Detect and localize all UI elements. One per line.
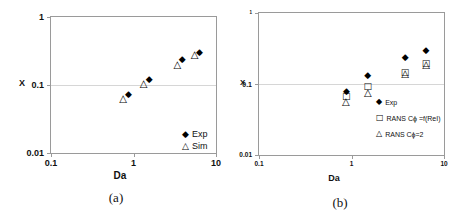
legend-label: Exp bbox=[192, 130, 208, 139]
legend-diamond-icon: ◆ bbox=[182, 130, 189, 139]
legend-item: △RANS Cϕ=2 bbox=[376, 126, 440, 142]
data-point-triangle: △ bbox=[140, 79, 148, 89]
legend-item: ◆Exp bbox=[182, 128, 207, 140]
y-axis-title-b: X bbox=[240, 79, 245, 87]
y-tick-mark bbox=[255, 155, 259, 156]
figure: 0.111010.10.01◆◆◆◆△△△△ X Da (a) ◆Exp△Sim… bbox=[0, 0, 457, 220]
x-axis-title-a: Da bbox=[114, 171, 127, 181]
y-tick-label: 1 bbox=[249, 11, 252, 16]
data-point-triangle: △ bbox=[401, 68, 409, 78]
legend-item: ◆Exp bbox=[376, 94, 440, 110]
y-tick-label: 0.1 bbox=[31, 81, 44, 90]
data-point-triangle: △ bbox=[342, 97, 350, 107]
x-axis-title-b: Da bbox=[328, 174, 340, 183]
legend-square-icon: □ bbox=[376, 114, 384, 122]
y-axis-title-a: X bbox=[19, 79, 25, 88]
data-point-triangle: △ bbox=[173, 60, 181, 70]
x-tick-mark bbox=[352, 155, 353, 159]
y-tick-mark bbox=[255, 13, 259, 14]
y-tick-label: 1 bbox=[39, 13, 44, 22]
legend-a: ◆Exp△Sim bbox=[182, 128, 207, 152]
x-tick-mark bbox=[444, 155, 445, 159]
y-tick-mark bbox=[255, 84, 259, 85]
legend-triangle-icon: △ bbox=[376, 130, 382, 138]
legend-label: Exp bbox=[385, 99, 397, 106]
x-tick-label: 1 bbox=[131, 159, 136, 168]
y-tick-mark bbox=[47, 153, 51, 154]
gridline-y bbox=[259, 84, 444, 85]
legend-item: △Sim bbox=[182, 140, 207, 152]
data-point-triangle: △ bbox=[119, 93, 127, 103]
data-point-triangle: △ bbox=[191, 49, 199, 59]
caption-a: (a) bbox=[109, 191, 123, 204]
caption-b: (b) bbox=[332, 196, 347, 209]
data-point-diamond: ◆ bbox=[402, 53, 409, 62]
y-tick-mark bbox=[47, 85, 51, 86]
legend-triangle-icon: △ bbox=[182, 142, 189, 151]
data-point-triangle: △ bbox=[364, 88, 372, 98]
x-tick-label: 10 bbox=[440, 161, 447, 168]
legend-label: RANS Cϕ =f(ReI) bbox=[387, 115, 441, 122]
x-tick-mark bbox=[259, 155, 260, 159]
x-tick-label: 1 bbox=[350, 161, 354, 168]
x-tick-label: 10 bbox=[211, 159, 221, 168]
y-tick-mark bbox=[47, 17, 51, 18]
y-tick-label: 0.01 bbox=[26, 149, 44, 158]
y-tick-label: 0.01 bbox=[239, 152, 252, 159]
legend-item: □RANS Cϕ =f(ReI) bbox=[376, 110, 440, 126]
x-tick-mark bbox=[51, 153, 52, 157]
legend-diamond-icon: ◆ bbox=[376, 98, 382, 106]
data-point-diamond: ◆ bbox=[364, 72, 371, 81]
gridline-y bbox=[51, 85, 216, 86]
x-tick-label: 0.1 bbox=[254, 161, 263, 168]
x-tick-mark bbox=[216, 153, 217, 157]
legend-b: ◆Exp□RANS Cϕ =f(ReI)△RANS Cϕ=2 bbox=[376, 94, 440, 142]
data-point-diamond: ◆ bbox=[423, 46, 430, 55]
x-tick-label: 0.1 bbox=[45, 159, 58, 168]
data-point-triangle: △ bbox=[422, 60, 430, 70]
x-tick-mark bbox=[134, 153, 135, 157]
legend-label: Sim bbox=[192, 142, 208, 151]
legend-label: RANS Cϕ=2 bbox=[385, 131, 423, 138]
